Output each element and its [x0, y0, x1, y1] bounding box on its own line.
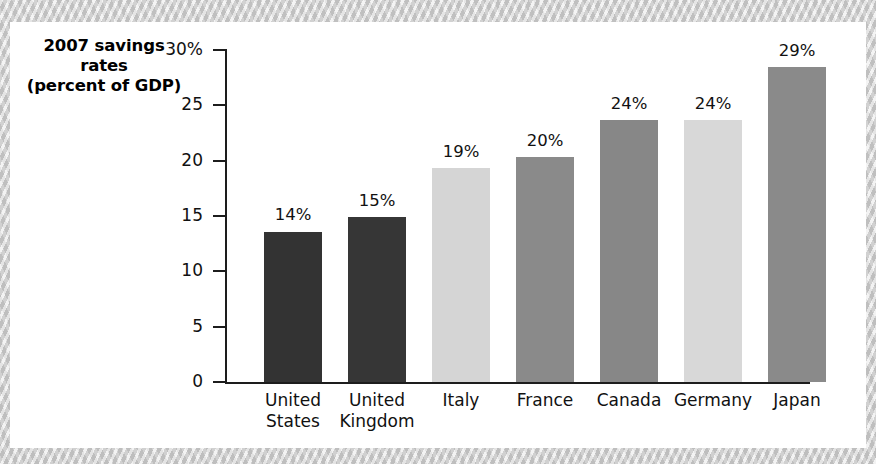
bar-value-label: 20%: [503, 131, 587, 150]
x-axis-category-label: Germany: [665, 390, 761, 411]
bar[interactable]: [516, 157, 574, 382]
figure-page: 2007 savings rates (percent of GDP) 2007…: [0, 0, 876, 464]
x-axis-category-label: Japan: [749, 390, 845, 411]
x-axis-category-line: Japan: [749, 390, 845, 411]
bar-value-label: 29%: [755, 41, 839, 60]
bar-value-label: 14%: [251, 205, 335, 224]
bar-group: 24%Canada: [587, 22, 671, 448]
x-axis-category-label: UnitedKingdom: [329, 390, 425, 432]
y-axis-tick-label: 30%: [35, 39, 225, 59]
x-axis-category-label: UnitedStates: [245, 390, 341, 432]
y-axis-tick-label: 25: [35, 94, 225, 114]
x-axis-category-label: Italy: [413, 390, 509, 411]
x-axis-category-line: Kingdom: [329, 411, 425, 432]
x-axis-category-label: France: [497, 390, 593, 411]
y-axis-tick-label: 15: [35, 205, 225, 225]
x-axis-category-line: Italy: [413, 390, 509, 411]
bar-group: 20%France: [503, 22, 587, 448]
y-axis-tick-label: 10: [35, 260, 225, 280]
bar-value-label: 15%: [335, 191, 419, 210]
bar[interactable]: [684, 120, 742, 382]
x-axis-category-label: Canada: [581, 390, 677, 411]
bar[interactable]: [768, 67, 826, 382]
x-axis-category-line: States: [245, 411, 341, 432]
x-axis-category-line: Germany: [665, 390, 761, 411]
x-axis-category-line: United: [245, 390, 341, 411]
bar[interactable]: [432, 168, 490, 382]
x-axis-category-line: Canada: [581, 390, 677, 411]
bar-group: 24%Germany: [671, 22, 755, 448]
y-axis-tick-label: 20: [35, 150, 225, 170]
plot-area: 051015202530% 14%UnitedStates15%UnitedKi…: [10, 22, 866, 448]
bar[interactable]: [348, 217, 406, 382]
bar-group: 15%UnitedKingdom: [335, 22, 419, 448]
bar-group: 29%Japan: [755, 22, 839, 448]
bar[interactable]: [600, 120, 658, 382]
bar-group: 14%UnitedStates: [251, 22, 335, 448]
y-axis-ticks: 051015202530%: [10, 22, 225, 448]
bar[interactable]: [264, 232, 322, 383]
bars-layer: 14%UnitedStates15%UnitedKingdom19%Italy2…: [225, 22, 810, 448]
y-axis-tick-label: 5: [35, 316, 225, 336]
bar-value-label: 24%: [587, 94, 671, 113]
bar-group: 19%Italy: [419, 22, 503, 448]
y-axis-tick-label: 0: [35, 371, 225, 391]
bar-value-label: 19%: [419, 142, 503, 161]
bar-value-label: 24%: [671, 94, 755, 113]
x-axis-category-line: United: [329, 390, 425, 411]
chart-canvas: 2007 savings rates (percent of GDP) 2007…: [10, 22, 866, 448]
x-axis-category-line: France: [497, 390, 593, 411]
